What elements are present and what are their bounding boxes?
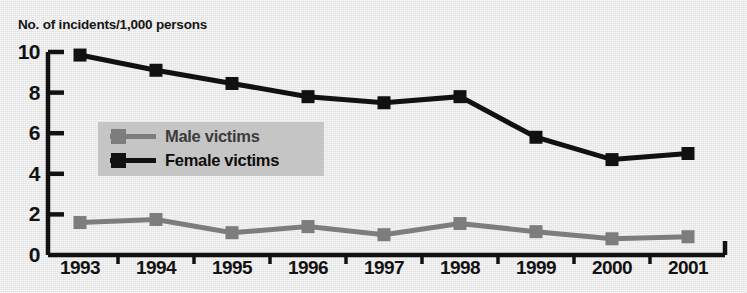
data-point-marker [302,220,315,233]
data-point-marker [226,77,239,90]
legend-marker-male-icon [111,129,126,144]
legend-label-female: Female victims [165,152,279,169]
data-point-marker [682,147,695,160]
data-point-marker [454,217,467,230]
data-point-marker [454,90,467,103]
data-point-marker [150,64,163,77]
data-point-marker [74,49,87,62]
data-point-marker [150,213,163,226]
legend-swatch-male-icon [110,126,156,146]
data-point-marker [378,228,391,241]
chart-container: No. of incidents/1,000 persons 0246810 1… [0,0,747,293]
chart-legend: Male victims Female victims [98,122,324,176]
data-point-marker [226,226,239,239]
data-point-marker [302,90,315,103]
legend-swatch-female-icon [110,150,156,170]
data-point-marker [682,230,695,243]
legend-marker-female-icon [111,153,126,168]
data-point-marker [74,216,87,229]
data-point-marker [606,232,619,245]
legend-item-female: Female victims [110,148,279,172]
legend-item-male: Male victims [110,124,260,148]
data-point-marker [530,131,543,144]
legend-label-male: Male victims [165,128,260,145]
data-point-marker [378,96,391,109]
data-point-marker [530,225,543,238]
data-point-marker [606,153,619,166]
series-male-victims [74,213,695,245]
